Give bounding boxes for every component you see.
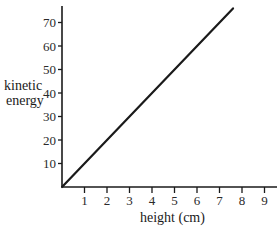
y-axis-label-line-1: kinetic bbox=[4, 78, 42, 93]
y-axis-label-line-2: energy bbox=[6, 93, 44, 108]
y-tick-label: 60 bbox=[43, 39, 56, 54]
x-tick-label: 1 bbox=[81, 193, 88, 208]
y-tick-label: 30 bbox=[43, 109, 56, 124]
x-tick-label: 7 bbox=[216, 193, 223, 208]
x-tick-label: 5 bbox=[171, 193, 178, 208]
y-axis: 10203040506070 bbox=[43, 6, 62, 187]
x-tick-label: 3 bbox=[126, 193, 133, 208]
y-tick-label: 20 bbox=[43, 133, 56, 148]
y-tick-label: 40 bbox=[43, 86, 56, 101]
line-chart: 10203040506070 123456789 kinetic energy … bbox=[0, 0, 277, 229]
x-axis-label: height (cm) bbox=[140, 210, 205, 226]
data-series bbox=[62, 8, 233, 187]
x-tick-label: 9 bbox=[261, 193, 268, 208]
y-tick-label: 50 bbox=[43, 62, 56, 77]
y-tick-label: 10 bbox=[43, 156, 56, 171]
data-line bbox=[62, 8, 233, 187]
x-tick-label: 6 bbox=[194, 193, 201, 208]
x-tick-label: 2 bbox=[104, 193, 111, 208]
x-tick-label: 8 bbox=[239, 193, 246, 208]
x-axis: 123456789 bbox=[62, 187, 277, 208]
y-tick-label: 70 bbox=[43, 15, 56, 30]
x-tick-label: 4 bbox=[149, 193, 156, 208]
